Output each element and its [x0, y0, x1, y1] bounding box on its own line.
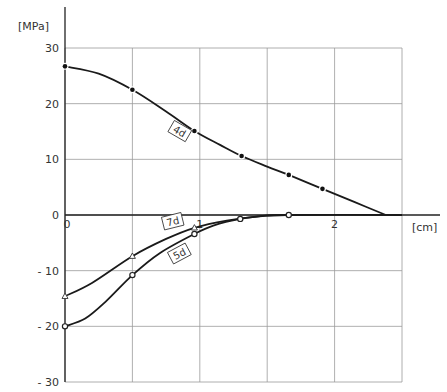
open-circle-marker: [286, 212, 291, 217]
filled-circle-marker: [286, 173, 291, 178]
y-tick-label: 10: [45, 153, 59, 166]
open-circle-marker: [238, 216, 243, 221]
y-tick-label: - 20: [38, 320, 59, 333]
y-tick-label: 20: [45, 98, 59, 111]
filled-circle-marker: [320, 187, 325, 192]
filled-circle-marker: [63, 64, 68, 69]
data-curves: [65, 66, 402, 326]
open-circle-marker: [62, 324, 67, 329]
filled-circle-marker: [239, 154, 244, 159]
y-tick-label: - 10: [38, 265, 59, 278]
x-tick-label: 0: [64, 218, 71, 231]
x-tick-label: 2: [331, 218, 338, 231]
filled-circle-marker: [192, 129, 197, 134]
series-label-4d: 4d: [168, 120, 192, 141]
curve-7d: [65, 215, 402, 296]
y-tick-label: - 30: [38, 376, 59, 389]
y-axis-label: [MPa]: [18, 20, 49, 33]
stress-distribution-chart: 3020100- 10- 20- 30012 4d7d5d [MPa] [cm]: [0, 0, 447, 392]
x-axis-label: [cm]: [412, 221, 437, 234]
open-circle-marker: [192, 231, 197, 236]
filled-circle-marker: [130, 87, 135, 92]
y-tick-label: 0: [52, 209, 59, 222]
open-circle-marker: [130, 273, 135, 278]
curve-4d: [65, 66, 386, 215]
axes: [65, 7, 440, 382]
y-tick-label: 30: [45, 42, 59, 55]
data-markers: [62, 63, 326, 329]
